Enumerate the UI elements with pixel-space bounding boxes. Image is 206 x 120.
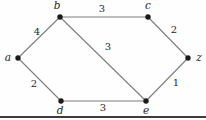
edge-weight-a-b: 4 xyxy=(34,26,40,37)
vertex-c xyxy=(145,14,150,19)
edge-weight-c-z: 2 xyxy=(171,24,177,35)
graph-svg: 4322313abcdez xyxy=(0,0,206,120)
edge-weight-b-c: 3 xyxy=(99,3,105,14)
edge-a-d xyxy=(18,58,61,101)
vertex-label-b: b xyxy=(54,0,61,11)
vertex-label-c: c xyxy=(145,0,151,11)
edge-weight-b-e: 3 xyxy=(105,41,111,52)
vertex-d xyxy=(58,98,63,103)
edge-e-z xyxy=(146,58,188,101)
edge-a-b xyxy=(18,17,60,58)
edge-c-z xyxy=(148,17,188,58)
vertex-e xyxy=(143,98,148,103)
edge-weight-e-z: 1 xyxy=(173,77,179,88)
edge-b-e xyxy=(60,17,146,101)
vertex-z xyxy=(185,55,190,60)
vertex-b xyxy=(57,14,62,19)
graph-diagram: 4322313abcdez xyxy=(0,0,206,120)
edge-weight-d-e: 3 xyxy=(100,102,106,113)
vertex-a xyxy=(15,55,20,60)
edge-weight-a-d: 2 xyxy=(31,78,37,89)
vertex-label-d: d xyxy=(57,104,64,116)
vertex-label-z: z xyxy=(195,51,202,63)
vertex-label-e: e xyxy=(143,104,149,116)
vertex-label-a: a xyxy=(5,51,11,63)
